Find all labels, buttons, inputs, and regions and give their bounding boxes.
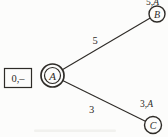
start-label-text: 0,– [11, 73, 25, 84]
node-c-distance-label: 3,A [140, 99, 153, 109]
edge-a-c-weight-label: 3 [89, 104, 94, 115]
node-c-letter: C [150, 120, 157, 131]
node-b-via-node: A [152, 0, 159, 7]
node-b-letter: B [154, 9, 160, 20]
node-c-distance-value: 3, [140, 99, 147, 109]
node-b-distance-value: 5, [146, 0, 153, 7]
edge-a-b-weight-label: 5 [92, 35, 97, 46]
scan-artifact-smudge [34, 130, 116, 133]
node-b-distance-label: 5,A [146, 0, 159, 7]
edge-a-c [53, 76, 154, 126]
node-a-letter: A [48, 70, 56, 82]
node-c-via-node: A [146, 99, 153, 109]
shortest-path-graph-figure: 5 3 A B C 5,A 3,A 0,– [0, 0, 168, 137]
edge-a-b [53, 14, 158, 76]
